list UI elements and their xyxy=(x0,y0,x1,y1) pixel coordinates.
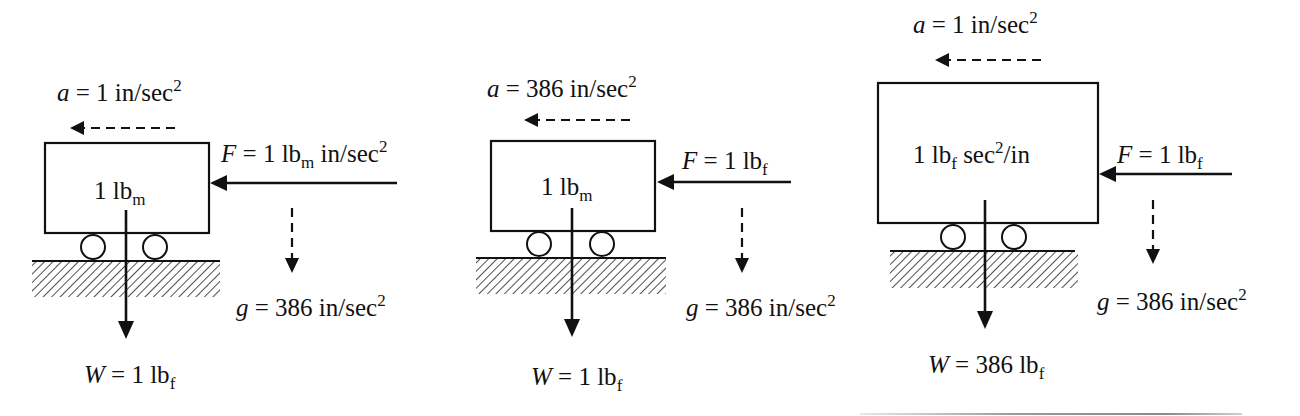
exponent: 2 xyxy=(1238,285,1247,304)
exponent: 2 xyxy=(377,291,386,310)
unit-subscript: m xyxy=(132,190,145,209)
force-arrow-icon xyxy=(1099,166,1232,182)
equation: = 1 in/sec xyxy=(70,79,174,106)
symbol: g xyxy=(1097,288,1110,315)
equation: = 1 lb xyxy=(697,147,762,174)
unit-subscript: m xyxy=(301,153,314,172)
equation: = 1 lb xyxy=(552,363,617,390)
exponent: 2 xyxy=(379,137,388,156)
acceleration-arrow-icon xyxy=(524,113,630,127)
unit-subscript: f xyxy=(762,160,768,179)
gravity-label: g = 386 in/sec2 xyxy=(686,295,836,320)
mass-label: 1 lbm xyxy=(94,178,145,203)
symbol: F xyxy=(221,140,236,167)
gravity-arrow-icon xyxy=(1146,200,1160,264)
exponent: 2 xyxy=(995,138,1004,157)
symbol: g xyxy=(236,294,249,321)
mass-label: 1 lbm xyxy=(541,174,592,199)
symbol: F xyxy=(682,147,697,174)
acceleration-label: a = 386 in/sec2 xyxy=(487,76,637,101)
force-label: F = 1 lbf xyxy=(1117,142,1203,167)
acceleration-arrow-icon xyxy=(935,53,1041,67)
equation: = 1 lb xyxy=(236,140,301,167)
symbol: F xyxy=(1117,141,1132,168)
symbol: W xyxy=(84,361,105,388)
force-label: F = 1 lbm in/sec2 xyxy=(221,141,387,166)
acceleration-label: a = 1 in/sec2 xyxy=(913,12,1038,37)
exponent: 2 xyxy=(827,291,836,310)
equation: = 1 in/sec xyxy=(926,11,1030,38)
force-label: F = 1 lbf xyxy=(682,148,768,173)
force-arrow-icon xyxy=(210,175,397,191)
equation: = 386 in/sec xyxy=(699,294,828,321)
symbol: W xyxy=(531,363,552,390)
gravity-arrow-icon xyxy=(285,208,299,273)
wheel-icon xyxy=(941,225,965,249)
equation: = 386 in/sec xyxy=(249,294,378,321)
mass-value: 1 lb xyxy=(913,141,951,168)
symbol: a xyxy=(487,75,500,102)
equation: = 1 lb xyxy=(105,361,170,388)
weight-label: W = 1 lbf xyxy=(84,362,175,387)
equation: = 386 lb xyxy=(949,351,1039,378)
force-arrow-icon xyxy=(657,174,791,190)
acceleration-arrow-icon xyxy=(70,121,175,135)
exponent: 2 xyxy=(628,72,637,91)
unit-subscript: f xyxy=(617,376,623,395)
equation-rest: in/sec xyxy=(314,140,379,167)
weight-label: W = 1 lbf xyxy=(531,364,622,389)
free-body-diagram-figure: a = 1 in/sec2 1 lbm F = 1 lbm in/sec2 g … xyxy=(0,0,1300,416)
acceleration-label: a = 1 in/sec2 xyxy=(57,80,182,105)
unit-subscript: f xyxy=(1197,154,1203,173)
symbol: g xyxy=(686,294,699,321)
gravity-label: g = 386 in/sec2 xyxy=(1097,289,1247,314)
symbol: W xyxy=(928,351,949,378)
mass-value: 1 lb xyxy=(94,177,132,204)
mass-label: 1 lbf sec2/in xyxy=(913,142,1030,167)
bottom-rule xyxy=(860,413,1242,415)
wheel-icon xyxy=(1002,225,1026,249)
equation: = 386 in/sec xyxy=(1110,288,1239,315)
equation: = 386 in/sec xyxy=(500,75,629,102)
gravity-arrow-icon xyxy=(735,208,749,273)
exponent: 2 xyxy=(173,76,182,95)
mass-tail: /in xyxy=(1004,141,1030,168)
mass-value: 1 lb xyxy=(541,173,579,200)
wheel-icon xyxy=(143,235,167,259)
unit-subscript: f xyxy=(1039,364,1045,383)
symbol: a xyxy=(57,79,70,106)
gravity-label: g = 386 in/sec2 xyxy=(236,295,386,320)
equation: = 1 lb xyxy=(1132,141,1197,168)
mass-rest: sec xyxy=(957,141,995,168)
exponent: 2 xyxy=(1029,8,1038,27)
weight-label: W = 386 lbf xyxy=(928,352,1044,377)
unit-subscript: f xyxy=(170,374,176,393)
diagram-canvas xyxy=(0,0,1300,416)
wheel-icon xyxy=(81,235,105,259)
unit-subscript: m xyxy=(579,186,592,205)
wheel-icon xyxy=(590,232,614,256)
wheel-icon xyxy=(527,232,551,256)
symbol: a xyxy=(913,11,926,38)
